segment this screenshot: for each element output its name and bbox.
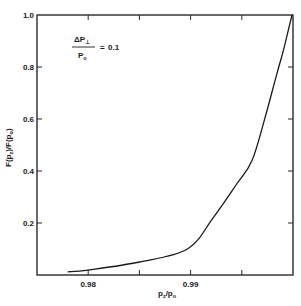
annotation: ΔP⊥ Po = 0.1	[72, 35, 120, 61]
y-tick-label: 1.0	[23, 11, 35, 20]
y-tick-label: 0.8	[23, 63, 35, 72]
x-axis-label: pz/po	[158, 289, 177, 299]
x-axis-ticks	[88, 15, 242, 275]
y-axis-label: F(pz)/F(po)	[4, 128, 14, 167]
x-tick-label: 0.98	[80, 280, 96, 289]
annotation-numerator: ΔP⊥	[74, 35, 90, 45]
y-axis-tick-labels: 0.20.40.60.81.0	[23, 11, 35, 228]
x-axis-tick-labels: 0.980.99	[80, 280, 199, 289]
data-curve	[68, 15, 292, 272]
annotation-denominator: Po	[78, 51, 87, 61]
plot-frame	[37, 15, 293, 275]
chart: 0.980.99 0.20.40.60.81.0 ΔP⊥ Po = 0.1 pz…	[0, 0, 301, 306]
x-tick-label: 0.99	[183, 280, 199, 289]
y-tick-label: 0.4	[23, 167, 35, 176]
annotation-value: 0.1	[108, 43, 120, 52]
y-axis-ticks	[37, 67, 293, 223]
annotation-equals: =	[100, 43, 105, 52]
y-tick-label: 0.6	[23, 115, 35, 124]
y-tick-label: 0.2	[23, 219, 35, 228]
